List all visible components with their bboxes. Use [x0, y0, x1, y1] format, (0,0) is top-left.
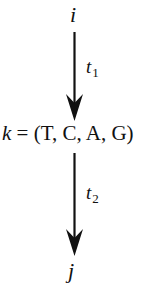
edge-i-to-k: [66, 32, 83, 121]
node-i: i: [70, 4, 76, 26]
node-k-value: (T, C, A, G): [34, 121, 134, 145]
equals-sign: =: [17, 121, 29, 145]
edge-label-t2: t2: [86, 183, 99, 205]
edge-k-to-j: [66, 153, 83, 256]
edge-label-t1: t1: [86, 57, 99, 79]
edge-label-subscript: 2: [92, 191, 99, 206]
arrows: [0, 0, 147, 292]
node-k-variable: k: [2, 121, 11, 145]
node-j: j: [68, 260, 74, 282]
node-k: k = (T, C, A, G): [2, 123, 134, 144]
edge-label-base: t: [86, 56, 91, 77]
edge-label-subscript: 1: [92, 65, 99, 80]
edge-label-base: t: [86, 182, 91, 203]
